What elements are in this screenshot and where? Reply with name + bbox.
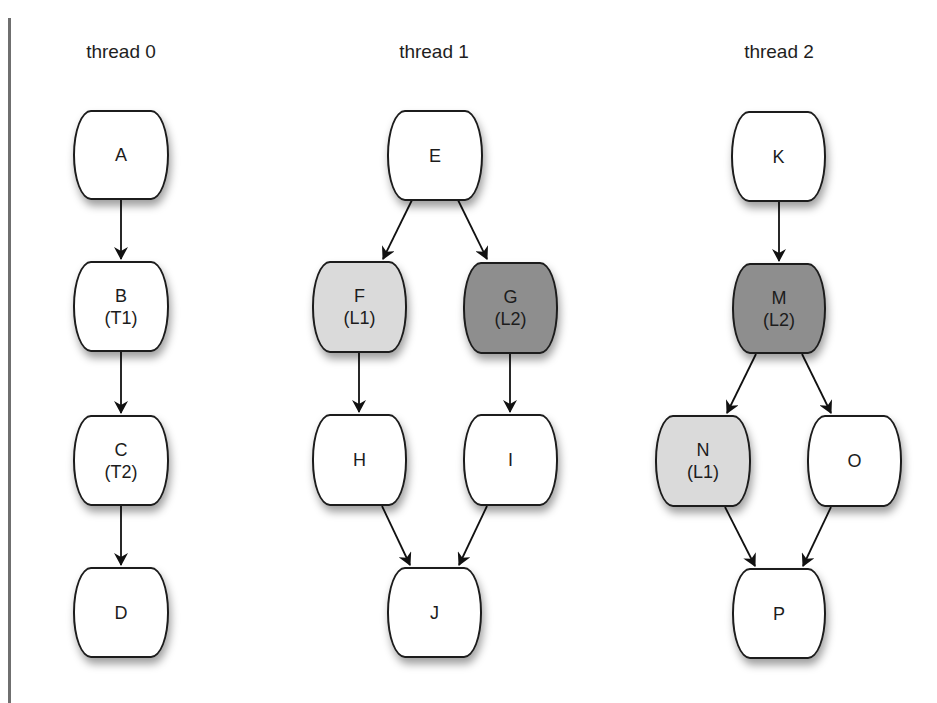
- node-c-label: C: [115, 439, 128, 461]
- node-p-label: P: [773, 603, 785, 625]
- node-a: A: [73, 110, 169, 200]
- node-b: B (T1): [73, 261, 169, 352]
- edge-h-j: [382, 506, 410, 565]
- node-j: J: [387, 567, 482, 658]
- node-a-label: A: [115, 144, 127, 166]
- node-g: G (L2): [463, 262, 558, 354]
- node-i-label: I: [508, 449, 513, 471]
- edge-e-f: [383, 200, 412, 259]
- node-f: F (L1): [312, 261, 407, 353]
- node-m-sublabel: (L2): [763, 309, 795, 331]
- edge-i-j: [459, 506, 487, 565]
- node-n: N (L1): [655, 415, 751, 507]
- node-f-sublabel: (L1): [343, 307, 375, 329]
- node-m: M (L2): [732, 263, 826, 354]
- node-d-label: D: [115, 602, 128, 624]
- node-b-label: B: [115, 285, 127, 307]
- node-c: C (T2): [73, 415, 169, 506]
- node-p: P: [732, 568, 826, 659]
- node-f-label: F: [354, 285, 365, 307]
- node-e: E: [387, 110, 483, 201]
- node-e-label: E: [429, 145, 441, 167]
- node-m-label: M: [772, 287, 787, 309]
- node-i: I: [463, 414, 558, 506]
- edge-m-o: [802, 354, 831, 413]
- node-g-label: G: [503, 286, 517, 308]
- edge-m-n: [727, 354, 756, 413]
- edge-e-g: [458, 200, 487, 259]
- node-d: D: [73, 567, 169, 658]
- node-h: H: [312, 414, 407, 506]
- node-n-sublabel: (L1): [687, 461, 719, 483]
- edge-n-p: [725, 507, 755, 566]
- node-o: O: [807, 415, 902, 507]
- node-n-label: N: [697, 439, 710, 461]
- node-k-label: K: [772, 146, 784, 168]
- node-h-label: H: [353, 449, 366, 471]
- node-j-label: J: [430, 602, 439, 624]
- edge-o-p: [803, 507, 831, 566]
- node-g-sublabel: (L2): [494, 308, 526, 330]
- node-c-sublabel: (T2): [105, 461, 138, 483]
- node-k: K: [731, 111, 826, 202]
- node-b-sublabel: (T1): [105, 307, 138, 329]
- node-o-label: O: [847, 450, 861, 472]
